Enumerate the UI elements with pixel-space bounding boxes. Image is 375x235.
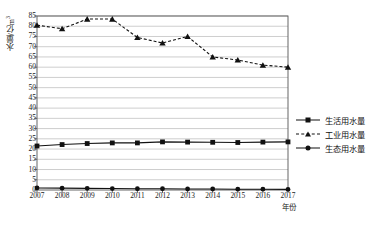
legend-symbol-triangle-icon bbox=[296, 128, 320, 140]
legend-label-1: 工业用水量 bbox=[320, 128, 365, 140]
legend-label-2: 生态用水量 bbox=[320, 142, 365, 154]
marker-square bbox=[160, 139, 165, 144]
legend-symbol-circle-icon bbox=[296, 142, 320, 154]
x-axis-title: 年份 bbox=[282, 201, 296, 212]
x-tick-2012: 2012 bbox=[155, 191, 170, 200]
x-tick-2016: 2016 bbox=[256, 191, 271, 200]
chart-legend: 生活用水量工业用水量生态用水量 bbox=[296, 113, 374, 155]
legend-label-0: 生活用水量 bbox=[320, 114, 365, 126]
x-tick-2014: 2014 bbox=[205, 191, 220, 200]
x-tick-2009: 2009 bbox=[80, 191, 95, 200]
x-tick-2017: 2017 bbox=[281, 191, 296, 200]
legend-item-0: 生活用水量 bbox=[296, 113, 374, 127]
water-usage-line-chart: 水量/亿m3 051015202530354045505560657075808… bbox=[0, 0, 375, 235]
legend-item-1: 工业用水量 bbox=[296, 127, 374, 141]
marker-square bbox=[185, 140, 190, 145]
x-tick-2013: 2013 bbox=[180, 191, 195, 200]
legend-symbol-square-icon bbox=[296, 114, 320, 126]
marker-square bbox=[60, 142, 65, 147]
x-tick-2007: 2007 bbox=[30, 191, 45, 200]
x-tick-2015: 2015 bbox=[230, 191, 245, 200]
marker-square bbox=[135, 141, 140, 146]
marker-circle bbox=[60, 186, 65, 191]
marker-square bbox=[210, 140, 215, 145]
marker-square bbox=[286, 139, 291, 144]
x-tick-2011: 2011 bbox=[130, 191, 145, 200]
x-tick-2008: 2008 bbox=[55, 191, 70, 200]
marker-circle bbox=[35, 186, 40, 191]
marker-square bbox=[110, 141, 115, 146]
marker-square bbox=[35, 144, 40, 149]
legend-item-2: 生态用水量 bbox=[296, 141, 374, 155]
marker-square bbox=[261, 140, 266, 145]
x-tick-2010: 2010 bbox=[105, 191, 120, 200]
marker-square bbox=[85, 141, 90, 146]
marker-square bbox=[235, 140, 240, 145]
